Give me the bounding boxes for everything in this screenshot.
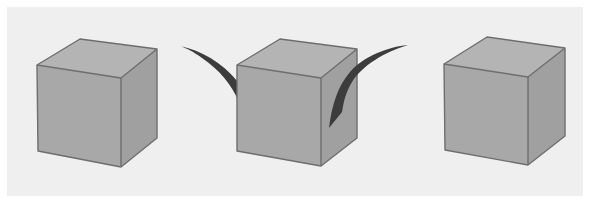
cube-left-front-face bbox=[37, 65, 121, 167]
cube-figure bbox=[0, 0, 590, 203]
cube-middle-winged bbox=[180, 39, 408, 166]
cube-middle-front-face bbox=[237, 65, 321, 166]
cube-right bbox=[444, 37, 565, 165]
left-wing-icon bbox=[180, 46, 238, 100]
cube-right-front-face bbox=[444, 64, 528, 165]
cube-left bbox=[37, 39, 157, 167]
